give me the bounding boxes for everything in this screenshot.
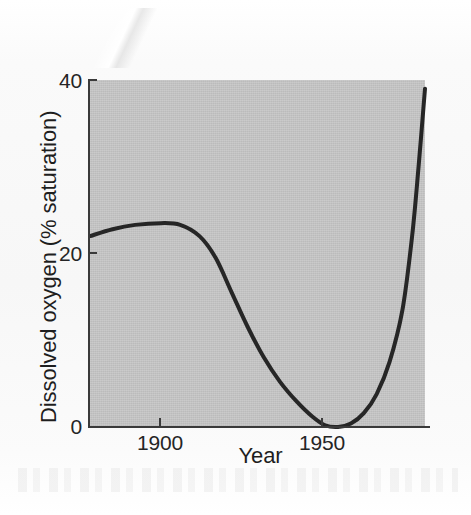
page-bleed-through-artifact: [18, 468, 458, 492]
y-axis-title: Dissolved oxygen (% saturation): [36, 111, 62, 423]
data-curve-svg: [90, 80, 425, 427]
x-tick-mark-1900: [159, 418, 161, 427]
y-tick-label-40: 40: [46, 69, 82, 93]
y-tick-mark-20: [88, 252, 97, 254]
plot-area: [90, 80, 425, 427]
figure-dissolved-oxygen: 40 20 0 1900 1950 Dissolved oxygen (% sa…: [0, 0, 471, 515]
y-tick-mark-40: [88, 79, 97, 81]
x-axis-title-text: Year: [188, 443, 282, 468]
scan-crease-artifact: [60, 8, 190, 68]
x-axis-title: Year: [0, 443, 471, 469]
x-tick-mark-1950: [321, 418, 323, 427]
series-line-dissolved-oxygen: [90, 89, 425, 427]
x-axis-line: [88, 426, 430, 428]
